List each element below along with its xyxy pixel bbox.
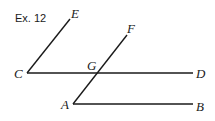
geometry-diagram: Ex. 12 E F C G D A B (0, 0, 215, 121)
point-label-D: D (195, 66, 206, 81)
point-label-G: G (87, 58, 97, 73)
point-label-F: F (126, 21, 136, 36)
point-label-B: B (196, 99, 204, 114)
exercise-label: Ex. 12 (15, 12, 46, 24)
segment-CE (27, 19, 70, 73)
point-label-E: E (70, 6, 79, 21)
point-label-A: A (60, 97, 69, 112)
point-label-C: C (14, 66, 23, 81)
segment-AF (73, 35, 127, 104)
